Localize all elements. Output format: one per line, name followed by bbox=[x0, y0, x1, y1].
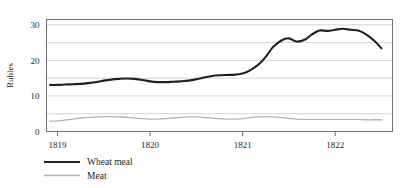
y-tick-label: 20 bbox=[31, 56, 41, 66]
x-tick-label: 1821 bbox=[234, 140, 252, 150]
series-line-wheat-meal bbox=[50, 29, 381, 85]
chart-figure: 0102030 1819182018211822 Rubles Wheat me… bbox=[0, 0, 406, 188]
y-tick-label: 0 bbox=[35, 127, 40, 137]
rubles-line-chart: 0102030 1819182018211822 Rubles Wheat me… bbox=[0, 0, 406, 188]
x-tick-label: 1822 bbox=[326, 140, 344, 150]
legend-label-meat: Meat bbox=[87, 171, 107, 181]
y-tick-label: 30 bbox=[31, 20, 41, 30]
x-axis-ticks: 1819182018211822 bbox=[49, 132, 345, 150]
chart-legend: Wheat mealMeat bbox=[44, 157, 133, 181]
x-tick-label: 1819 bbox=[49, 140, 68, 150]
x-tick-label: 1820 bbox=[141, 140, 160, 150]
gridlines bbox=[47, 25, 393, 114]
y-tick-label: 10 bbox=[31, 91, 41, 101]
series-line-meat bbox=[50, 117, 381, 122]
y-axis-ticks: 0102030 bbox=[31, 20, 41, 137]
legend-label-wheat-meal: Wheat meal bbox=[87, 157, 133, 167]
y-axis-label-text: Rubles bbox=[5, 63, 15, 88]
y-axis-label: Rubles bbox=[5, 63, 15, 88]
